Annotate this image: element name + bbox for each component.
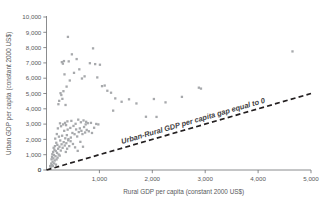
data-point bbox=[69, 140, 71, 142]
data-point bbox=[56, 133, 58, 135]
data-point bbox=[61, 135, 63, 137]
data-point bbox=[291, 50, 293, 52]
y-tick-label: 10,000 bbox=[22, 13, 41, 20]
data-point bbox=[70, 136, 72, 138]
data-point bbox=[67, 36, 69, 38]
data-point bbox=[68, 60, 70, 62]
data-point bbox=[164, 101, 166, 103]
data-point bbox=[65, 151, 67, 153]
data-point bbox=[181, 96, 183, 98]
data-point bbox=[94, 63, 96, 65]
data-point bbox=[97, 123, 99, 125]
data-point bbox=[66, 134, 68, 136]
data-point bbox=[60, 143, 62, 145]
data-point bbox=[61, 147, 63, 149]
data-point bbox=[58, 136, 60, 138]
x-tick-label: 5,000 bbox=[303, 175, 319, 182]
data-point bbox=[69, 79, 71, 81]
data-point bbox=[85, 123, 87, 125]
data-point bbox=[69, 127, 71, 129]
data-point bbox=[110, 92, 112, 94]
data-point bbox=[91, 132, 93, 134]
data-point bbox=[65, 124, 67, 126]
data-point bbox=[155, 116, 157, 118]
data-point bbox=[57, 127, 59, 129]
data-point bbox=[83, 75, 85, 77]
data-point bbox=[87, 122, 89, 124]
scatter-plot: 01,0002,0003,0004,0005,0006,0007,0008,00… bbox=[0, 0, 327, 202]
data-point bbox=[75, 128, 77, 130]
data-point bbox=[54, 155, 56, 157]
data-point bbox=[55, 142, 57, 144]
data-point bbox=[67, 128, 69, 130]
data-point bbox=[71, 53, 73, 55]
data-point bbox=[74, 146, 76, 148]
data-point bbox=[74, 123, 76, 125]
data-point bbox=[54, 145, 56, 147]
data-point bbox=[92, 47, 94, 49]
x-tick-label: 1,000 bbox=[92, 175, 108, 182]
data-point bbox=[63, 130, 65, 132]
data-point bbox=[60, 125, 62, 127]
data-point bbox=[82, 119, 84, 121]
data-point bbox=[78, 131, 80, 133]
data-point bbox=[86, 129, 88, 131]
data-point bbox=[93, 127, 95, 129]
data-point bbox=[99, 64, 101, 66]
data-point bbox=[153, 98, 155, 100]
data-point bbox=[112, 109, 114, 111]
y-tick-label: 6,000 bbox=[26, 74, 42, 81]
data-point bbox=[58, 100, 60, 102]
data-point bbox=[71, 132, 73, 134]
data-point bbox=[62, 63, 64, 65]
data-point bbox=[63, 73, 65, 75]
data-point bbox=[77, 119, 79, 121]
y-tick-label: 5,000 bbox=[26, 90, 42, 97]
data-point bbox=[200, 87, 202, 89]
data-point bbox=[70, 120, 72, 122]
data-point bbox=[57, 148, 59, 150]
data-point bbox=[66, 120, 68, 122]
data-point bbox=[79, 127, 81, 129]
data-point bbox=[52, 151, 54, 153]
data-point bbox=[64, 104, 66, 106]
data-point bbox=[101, 85, 103, 87]
data-point bbox=[59, 139, 61, 141]
y-tick-label: 9,000 bbox=[26, 29, 42, 36]
data-point bbox=[90, 122, 92, 124]
data-point bbox=[80, 121, 82, 123]
x-tick-label: 4,000 bbox=[250, 175, 266, 182]
data-point bbox=[120, 101, 122, 103]
data-point bbox=[60, 94, 62, 96]
data-point bbox=[104, 84, 106, 86]
data-point bbox=[76, 58, 78, 60]
data-point bbox=[65, 142, 67, 144]
data-point bbox=[68, 145, 70, 147]
data-point bbox=[72, 125, 74, 127]
data-point bbox=[58, 146, 60, 148]
data-point bbox=[83, 126, 85, 128]
data-point bbox=[114, 97, 116, 99]
data-point bbox=[66, 148, 68, 150]
data-point bbox=[52, 157, 54, 159]
data-point bbox=[78, 68, 80, 70]
data-point bbox=[80, 130, 82, 132]
data-point bbox=[135, 102, 137, 104]
data-point bbox=[61, 98, 63, 100]
data-point bbox=[73, 72, 75, 74]
data-point bbox=[128, 98, 130, 100]
y-tick-label: 7,000 bbox=[26, 59, 42, 66]
x-tick-label: 2,000 bbox=[145, 175, 161, 182]
data-point bbox=[82, 146, 84, 148]
data-point bbox=[60, 149, 62, 151]
x-axis-title: Rural GDP per capita (constant 2000 US$) bbox=[123, 188, 244, 196]
data-point bbox=[81, 133, 83, 135]
data-point bbox=[52, 165, 54, 167]
data-point bbox=[63, 60, 65, 62]
data-point bbox=[65, 85, 67, 87]
data-point bbox=[64, 137, 66, 139]
data-point bbox=[198, 87, 200, 89]
data-point bbox=[89, 62, 91, 64]
data-point bbox=[54, 137, 56, 139]
y-axis-title: Urban GDP per capita (constant 2000 US$) bbox=[5, 32, 13, 155]
